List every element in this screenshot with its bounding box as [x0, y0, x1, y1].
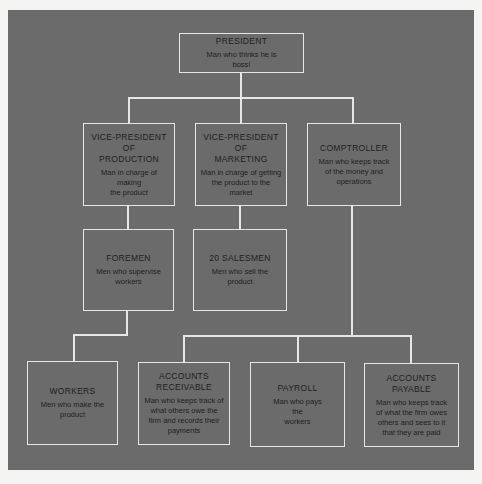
connector — [239, 205, 241, 229]
node-description: Man who keeps track of what the firm owe… — [376, 398, 447, 438]
connector — [352, 97, 354, 123]
node-description: Men who supervise workers — [96, 267, 161, 287]
node-accounts-receivable: ACCOUNTS RECEIVABLE Man who keeps track … — [138, 362, 230, 445]
connector — [351, 205, 353, 336]
node-description: Man who thinks he is boss! — [206, 50, 276, 70]
node-description: Men who sell the product — [212, 267, 268, 287]
node-salesmen: 20 SALESMEN Men who sell the product — [193, 229, 287, 311]
node-title: 20 SALESMEN — [209, 253, 270, 264]
connector — [73, 334, 128, 336]
node-description: Men who make the product — [41, 400, 104, 420]
connector — [410, 335, 412, 363]
node-comptroller: COMPTROLLER Man who keeps track of the m… — [307, 123, 401, 206]
node-vp-production: VICE-PRESIDENT OF PRODUCTION Man in char… — [83, 123, 175, 206]
connector — [240, 97, 242, 123]
connector — [297, 335, 299, 362]
node-title: ACCOUNTS PAYABLE — [369, 373, 454, 395]
connector — [240, 72, 242, 98]
node-title: WORKERS — [49, 386, 95, 397]
node-description: Man in charge of making the product — [88, 168, 170, 198]
node-accounts-payable: ACCOUNTS PAYABLE Man who keeps track of … — [364, 363, 459, 447]
node-title: COMPTROLLER — [320, 143, 388, 154]
connector — [126, 310, 128, 335]
node-description: Man who keeps track of the money and ope… — [319, 157, 390, 187]
node-workers: WORKERS Men who make the product — [27, 361, 118, 445]
node-title: ACCOUNTS RECEIVABLE — [156, 371, 212, 393]
node-foremen: FOREMEN Men who supervise workers — [83, 229, 174, 311]
node-description: Man who keeps track of what others owe t… — [144, 396, 223, 436]
node-payroll: PAYROLL Man who pays the workers — [250, 362, 345, 447]
node-vp-marketing: VICE-PRESIDENT OF MARKETING Man in charg… — [195, 123, 287, 206]
connector — [127, 205, 129, 229]
node-title: VICE-PRESIDENT OF PRODUCTION — [91, 132, 167, 165]
node-title: PAYROLL — [277, 383, 317, 394]
node-description: Man who pays the workers — [273, 397, 321, 427]
connector — [183, 335, 185, 362]
node-description: Man in charge of getting the product to … — [201, 168, 281, 198]
node-title: FOREMEN — [106, 253, 151, 264]
node-president: PRESIDENT Man who thinks he is boss! — [179, 33, 304, 73]
node-title: VICE-PRESIDENT OF MARKETING — [203, 132, 279, 165]
connector — [73, 334, 75, 361]
connector — [128, 97, 130, 123]
node-title: PRESIDENT — [216, 36, 267, 47]
